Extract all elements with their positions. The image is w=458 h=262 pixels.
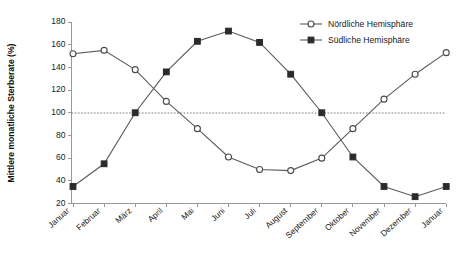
y-axis-title-group: Mittlere monatliche Sterberate (%) bbox=[6, 43, 16, 182]
legend-marker-open-circle-icon bbox=[308, 21, 314, 27]
chart-container: Mittlere monatliche Sterberate (%) 18016… bbox=[0, 0, 458, 262]
data-point-marker bbox=[350, 154, 356, 160]
chart-legend: Nördliche HemisphäreSüdliche Hemisphäre bbox=[300, 19, 413, 45]
y-tick-label: 40 bbox=[56, 175, 66, 185]
series-southern bbox=[70, 28, 449, 199]
series-line bbox=[73, 50, 446, 170]
x-tick-label: Dezember bbox=[378, 205, 413, 238]
data-point-marker bbox=[381, 184, 387, 190]
y-tick-label: 140 bbox=[51, 62, 65, 72]
data-point-marker bbox=[163, 98, 169, 104]
legend-item[interactable]: Nördliche Hemisphäre bbox=[300, 19, 413, 29]
data-point-marker bbox=[288, 71, 294, 77]
data-point-marker bbox=[319, 155, 325, 161]
data-point-marker bbox=[350, 126, 356, 132]
data-point-marker bbox=[257, 40, 263, 46]
x-tick-label: April bbox=[146, 205, 165, 224]
x-tick-label: Januar bbox=[46, 205, 72, 230]
data-point-marker bbox=[101, 47, 107, 53]
monthly-mortality-line-chart: Mittlere monatliche Sterberate (%) 18016… bbox=[0, 0, 458, 262]
x-tick-label: März bbox=[113, 206, 133, 226]
legend-item[interactable]: Südliche Hemisphäre bbox=[300, 35, 410, 45]
y-axis-ticks: 18016014012010080604020 bbox=[51, 16, 71, 208]
data-point-marker bbox=[412, 71, 418, 77]
series-northern bbox=[70, 47, 449, 173]
data-point-marker bbox=[70, 51, 76, 57]
data-point-marker bbox=[132, 110, 138, 116]
series-layer bbox=[70, 28, 449, 199]
x-tick-label: Februar bbox=[74, 205, 102, 232]
legend-label: Nördliche Hemisphäre bbox=[328, 19, 413, 29]
data-point-marker bbox=[257, 166, 263, 172]
data-point-marker bbox=[443, 50, 449, 56]
data-point-marker bbox=[194, 126, 200, 132]
y-tick-label: 80 bbox=[56, 130, 66, 140]
y-tick-label: 100 bbox=[51, 107, 65, 117]
y-tick-label: 160 bbox=[51, 39, 65, 49]
x-tick-label: September bbox=[283, 205, 320, 240]
data-point-marker bbox=[132, 67, 138, 73]
x-tick-label: Oktober bbox=[323, 205, 352, 232]
x-axis-labels: JanuarFebruarMärzAprilMaiJuniJuliAugustS… bbox=[46, 205, 445, 240]
data-point-marker bbox=[319, 110, 325, 116]
y-axis-title: Mittlere monatliche Sterberate (%) bbox=[6, 43, 16, 182]
data-point-marker bbox=[288, 168, 294, 174]
data-point-marker bbox=[226, 154, 232, 160]
data-point-marker bbox=[412, 194, 418, 200]
data-point-marker bbox=[101, 161, 107, 167]
legend-label: Südliche Hemisphäre bbox=[328, 35, 410, 45]
x-tick-label: Juni bbox=[209, 205, 227, 223]
x-tick-label: Januar bbox=[419, 205, 445, 230]
data-point-marker bbox=[381, 96, 387, 102]
x-tick-label: Mai bbox=[179, 205, 196, 221]
data-point-marker bbox=[163, 69, 169, 75]
data-point-marker bbox=[70, 184, 76, 190]
x-tick-label: Juli bbox=[242, 205, 258, 221]
legend-marker-filled-square-icon bbox=[308, 37, 314, 43]
y-tick-label: 180 bbox=[51, 16, 65, 26]
data-point-marker bbox=[443, 184, 449, 190]
x-tick-label: November bbox=[347, 205, 382, 238]
data-point-marker bbox=[195, 38, 201, 44]
x-tick-label: August bbox=[263, 205, 289, 230]
data-point-marker bbox=[226, 28, 232, 34]
y-tick-label: 120 bbox=[51, 84, 65, 94]
y-tick-label: 60 bbox=[56, 152, 66, 162]
x-axis-ticks bbox=[73, 204, 446, 208]
